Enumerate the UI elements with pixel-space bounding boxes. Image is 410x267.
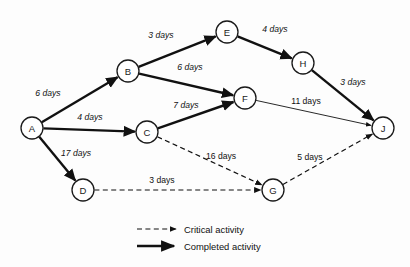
edge-label-g-j: 5 days bbox=[297, 152, 322, 162]
edge-label-e-h: 4 days bbox=[262, 24, 288, 34]
edge-a-d bbox=[39, 137, 75, 181]
node-j-label: J bbox=[381, 123, 386, 134]
edge-label-a-c: 4 days bbox=[77, 112, 103, 122]
node-c[interactable]: C bbox=[136, 121, 158, 143]
edge-label-layer: 6 days 4 days 17 days 3 days 6 days 7 da… bbox=[35, 24, 366, 185]
node-e-label: E bbox=[224, 27, 230, 38]
node-a-label: A bbox=[29, 123, 36, 134]
network-diagram-canvas: A B C D E F G bbox=[0, 0, 410, 267]
node-g-label: G bbox=[269, 185, 276, 196]
edge-label-d-g: 3 days bbox=[149, 175, 174, 185]
edge-label-a-b: 6 days bbox=[35, 88, 61, 98]
node-e[interactable]: E bbox=[216, 21, 238, 43]
node-g[interactable]: G bbox=[262, 179, 284, 201]
legend-item-completed: Completed activity bbox=[137, 241, 261, 252]
node-f-label: F bbox=[242, 93, 248, 104]
legend-completed-label: Completed activity bbox=[184, 241, 261, 252]
node-h[interactable]: H bbox=[292, 52, 314, 74]
node-f[interactable]: F bbox=[234, 87, 256, 109]
edge-label-h-j: 3 days bbox=[340, 77, 366, 87]
node-d-label: D bbox=[80, 185, 87, 196]
legend-critical-label: Critical activity bbox=[184, 224, 244, 235]
edge-label-c-g: 16 days bbox=[206, 151, 236, 161]
node-d[interactable]: D bbox=[72, 179, 94, 201]
edge-label-b-f: 6 days bbox=[177, 62, 203, 72]
node-b-label: B bbox=[125, 66, 131, 77]
legend: Critical activity Completed activity bbox=[137, 224, 261, 252]
node-b[interactable]: B bbox=[117, 60, 139, 82]
edge-e-h bbox=[238, 36, 292, 58]
node-c-label: C bbox=[144, 127, 151, 138]
legend-item-critical: Critical activity bbox=[137, 224, 244, 235]
node-j[interactable]: J bbox=[372, 117, 394, 139]
edge-label-a-d: 17 days bbox=[61, 148, 92, 158]
edge-label-c-f: 7 days bbox=[173, 100, 199, 110]
node-h-label: H bbox=[300, 58, 307, 69]
network-diagram: A B C D E F G bbox=[0, 0, 410, 267]
edge-a-c bbox=[43, 128, 134, 131]
edge-label-b-e: 3 days bbox=[148, 30, 174, 40]
node-a[interactable]: A bbox=[21, 117, 43, 139]
edge-label-f-j: 11 days bbox=[291, 96, 320, 106]
edge-b-f bbox=[139, 74, 233, 96]
